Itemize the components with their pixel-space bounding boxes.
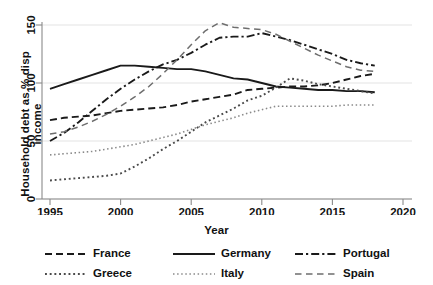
svg-text:2005: 2005 [178, 206, 204, 215]
series-line-france [50, 74, 375, 120]
legend-label: Italy [221, 267, 244, 279]
x-axis-label: Year [0, 224, 433, 236]
data-series-group [50, 23, 375, 181]
line-chart-plot: 050100150 199520002005201020152020 [0, 0, 433, 215]
legend-item-france[interactable]: France [44, 247, 172, 259]
legend-swatch-france [44, 249, 88, 258]
svg-text:2010: 2010 [249, 206, 275, 215]
legend-label: Portugal [343, 247, 390, 259]
legend-item-spain[interactable]: Spain [294, 267, 424, 279]
legend-label: Greece [93, 267, 132, 279]
svg-text:2015: 2015 [320, 206, 346, 215]
axis-lines [42, 22, 412, 199]
legend-swatch-portugal [294, 249, 338, 258]
svg-text:2020: 2020 [390, 206, 416, 215]
series-line-italy [50, 105, 375, 155]
series-line-portugal [50, 33, 375, 141]
y-axis-label: Household debt as % disp income [19, 31, 43, 217]
chart-container: Household debt as % disp income 05010015… [0, 0, 433, 285]
legend-item-italy[interactable]: Italy [172, 267, 294, 279]
svg-text:2000: 2000 [108, 206, 134, 215]
legend-label: Spain [343, 267, 374, 279]
legend-label: Germany [221, 247, 271, 259]
chart-legend: FranceGermanyPortugalGreeceItalySpain [44, 243, 424, 283]
legend-swatch-spain [294, 269, 338, 278]
x-axis-ticks: 199520002005201020152020 [37, 199, 416, 215]
legend-swatch-germany [172, 249, 216, 258]
legend-item-portugal[interactable]: Portugal [294, 247, 424, 259]
legend-label: France [93, 247, 131, 259]
series-line-greece [50, 78, 375, 180]
series-line-germany [50, 66, 375, 93]
legend-item-greece[interactable]: Greece [44, 267, 172, 279]
series-line-spain [50, 23, 375, 134]
legend-swatch-italy [172, 269, 216, 278]
legend-item-germany[interactable]: Germany [172, 247, 294, 259]
legend-swatch-greece [44, 269, 88, 278]
